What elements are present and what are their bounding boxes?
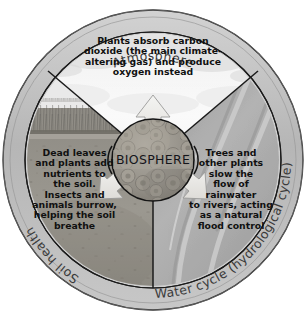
- soil-line-8: breathe: [22, 221, 127, 231]
- diagram-canvas: BIOSPHERE Atmosphere Soil health Water c…: [0, 0, 306, 320]
- atmosphere-line-4: oxygen instead: [63, 67, 243, 77]
- water-cycle-sector-text: Trees and other plants slow the flow of …: [181, 148, 281, 231]
- atmosphere-sector-text: Plants absorb carbon dioxide (the main c…: [63, 36, 243, 78]
- water-line-8: flood control: [181, 221, 281, 231]
- biosphere-label: BIOSPHERE: [116, 152, 190, 167]
- soil-health-sector-text: Dead leaves and plants add nutrients to …: [22, 148, 127, 231]
